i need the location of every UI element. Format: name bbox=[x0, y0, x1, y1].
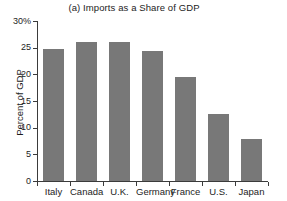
x-tick-label: U.K. bbox=[103, 187, 136, 197]
y-tick-label: 5 bbox=[0, 150, 31, 159]
y-tick-mark bbox=[33, 101, 38, 102]
plot-area: 051015202530% ItalyCanadaU.K.GermanyFran… bbox=[37, 21, 268, 182]
imports-share-of-gdp-chart: (a) Imports as a Share of GDP Percent of… bbox=[0, 0, 287, 201]
x-axis-line bbox=[37, 181, 268, 182]
x-tick-label: Germany bbox=[136, 187, 169, 197]
y-tick-mark bbox=[33, 48, 38, 49]
y-tick-label: 0 bbox=[0, 177, 31, 186]
x-tick-label: Japan bbox=[235, 187, 268, 197]
y-tick-mark bbox=[33, 21, 38, 22]
x-tick-mark bbox=[268, 182, 269, 186]
y-tick-label: 30% bbox=[0, 17, 31, 26]
bar bbox=[109, 42, 130, 181]
bar bbox=[142, 51, 163, 181]
bar bbox=[241, 139, 262, 181]
x-tick-mark bbox=[202, 182, 203, 186]
chart-title: (a) Imports as a Share of GDP bbox=[0, 2, 268, 13]
y-tick-label: 20 bbox=[0, 70, 31, 79]
bar bbox=[43, 49, 64, 181]
x-tick-label: Italy bbox=[37, 187, 70, 197]
y-tick-mark bbox=[33, 154, 38, 155]
x-tick-label: Canada bbox=[70, 187, 103, 197]
y-tick-mark bbox=[33, 74, 38, 75]
x-tick-mark bbox=[103, 182, 104, 186]
y-tick-mark bbox=[33, 128, 38, 129]
x-tick-mark bbox=[37, 182, 38, 186]
x-tick-label: France bbox=[169, 187, 202, 197]
bar bbox=[208, 114, 229, 181]
y-tick-label: 25 bbox=[0, 43, 31, 52]
y-tick-label: 10 bbox=[0, 123, 31, 132]
x-tick-mark bbox=[235, 182, 236, 186]
bar bbox=[175, 77, 196, 181]
y-tick-label: 15 bbox=[0, 97, 31, 106]
bar bbox=[76, 42, 97, 181]
x-tick-label: U.S. bbox=[202, 187, 235, 197]
